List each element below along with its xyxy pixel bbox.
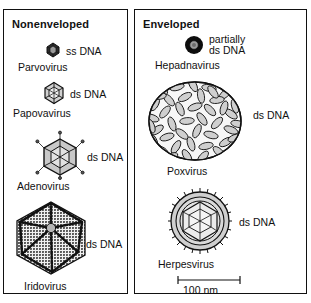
hepadnavirus-genome-label: partially ds DNA [209, 34, 245, 56]
poxvirus-name-label: Poxvirus [167, 165, 207, 177]
hepadnavirus-icon [184, 35, 204, 55]
panel-nonenveloped: Nonenveloped ss DNA Parvovirus [3, 9, 128, 294]
panel-enveloped: Enveloped partially ds DNA Hepadnavirus [134, 9, 307, 294]
herpesvirus-icon [167, 188, 233, 254]
virus-morphology-figure: Nonenveloped ss DNA Parvovirus [0, 0, 311, 303]
adenovirus-icon [32, 131, 88, 179]
scale-bar-label: 100 nm [183, 284, 218, 296]
adenovirus-name-label: Adenovirus [17, 180, 70, 192]
parvovirus-genome-label: ss DNA [66, 46, 102, 57]
papovavirus-genome-label: ds DNA [70, 89, 106, 100]
poxvirus-genome-label: ds DNA [253, 110, 289, 121]
parvovirus-name-label: Parvovirus [18, 61, 68, 73]
papovavirus-icon [42, 81, 66, 105]
herpesvirus-genome-label: ds DNA [239, 217, 275, 228]
herpesvirus-name-label: Herpesvirus [158, 258, 214, 270]
adenovirus-genome-label: ds DNA [87, 152, 123, 163]
iridovirus-genome-label: ds DNA [86, 239, 122, 250]
iridovirus-icon [12, 200, 90, 276]
iridovirus-name-label: Iridovirus [24, 280, 67, 292]
panel-title-enveloped: Enveloped [143, 18, 200, 30]
parvovirus-icon [45, 42, 61, 58]
poxvirus-icon [147, 80, 243, 162]
papovavirus-name-label: Papovavirus [13, 107, 71, 119]
hepadnavirus-name-label: Hepadnavirus [155, 59, 220, 71]
panel-title-nonenveloped: Nonenveloped [12, 18, 89, 30]
hepadnavirus-genome-line2: ds DNA [209, 45, 245, 56]
